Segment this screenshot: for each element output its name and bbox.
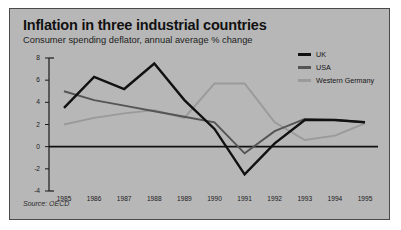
y-axis-tick-label: 4: [28, 98, 40, 105]
chart-panel: Inflation in three industrial countries …: [9, 8, 390, 220]
y-axis-tick-label: 8: [28, 54, 40, 61]
x-axis-tick-label: 1986: [81, 195, 107, 202]
x-axis-tick-label: 1995: [352, 195, 378, 202]
y-axis-tick-label: -2: [28, 165, 40, 172]
x-axis-tick-label: 1991: [232, 195, 258, 202]
y-axis-tick-label: -4: [28, 187, 40, 194]
x-axis-tick-label: 1987: [111, 195, 137, 202]
y-axis-tick-label: 0: [28, 143, 40, 150]
x-axis-tick-label: 1992: [262, 195, 288, 202]
x-axis-tick-label: 1988: [141, 195, 167, 202]
x-axis-tick-label: 1990: [202, 195, 228, 202]
x-axis-tick-label: 1994: [322, 195, 348, 202]
x-axis-tick-label: 1993: [292, 195, 318, 202]
y-axis-tick-label: 6: [28, 76, 40, 83]
y-axis-tick-label: 2: [28, 121, 40, 128]
chart-plot-area: 86420-2-41985198619871988198919901991199…: [10, 9, 391, 221]
chart-svg: [10, 9, 391, 221]
x-axis-tick-label: 1989: [171, 195, 197, 202]
chart-source-note: Source: OECD: [23, 200, 69, 207]
